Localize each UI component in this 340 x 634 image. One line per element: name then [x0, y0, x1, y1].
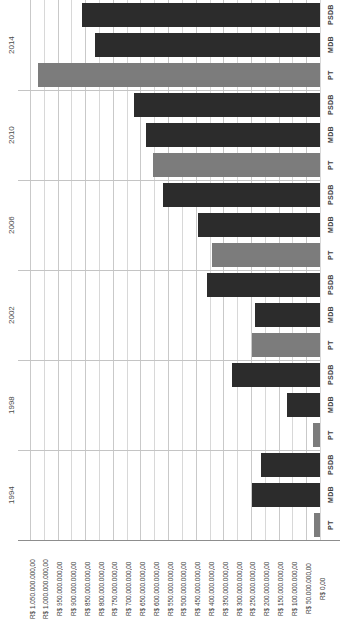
- party-label-psdb: PSDB: [322, 93, 338, 117]
- party-label-mdb: MDB: [322, 123, 338, 147]
- party-label-mdb: MDB: [322, 33, 338, 57]
- x-tick-label: R$ 1.000.000.000,00: [38, 545, 49, 633]
- x-tick-label: R$ 250.000.000,00: [245, 545, 256, 633]
- party-label-psdb: PSDB: [322, 273, 338, 297]
- year-label-2006: 2006: [2, 212, 20, 238]
- bar: [212, 243, 320, 267]
- party-label-mdb: MDB: [322, 483, 338, 507]
- bar: [287, 393, 320, 417]
- x-tick-label: R$ 200.000.000,00: [259, 545, 270, 633]
- party-label-mdb: MDB: [322, 303, 338, 327]
- bar-chart: 201420102006200219981994 PSDBMDBPTPSDBMD…: [0, 0, 340, 634]
- x-tick-label: R$ 800.000.000,00: [94, 545, 105, 633]
- year-label-2010: 2010: [2, 122, 20, 148]
- x-tick-label: R$ 0,00: [315, 545, 326, 633]
- bar: [82, 3, 320, 27]
- plot-area: [30, 0, 320, 540]
- x-tick-label: R$ 50.000.000,00: [301, 545, 312, 633]
- year-label-2014: 2014: [2, 32, 20, 58]
- x-tick-label: R$ 650.000.000,00: [135, 545, 146, 633]
- bar: [313, 423, 320, 447]
- x-tick-label: R$ 100.000.000,00: [287, 545, 298, 633]
- bar: [255, 303, 320, 327]
- party-label-pt: PT: [322, 243, 338, 267]
- year-label-2002: 2002: [2, 302, 20, 328]
- bar: [232, 363, 320, 387]
- x-tick-label: R$ 1.050.000.000,00: [25, 545, 36, 633]
- bar: [163, 183, 320, 207]
- party-label-psdb: PSDB: [322, 183, 338, 207]
- group-separator: [18, 90, 320, 91]
- group-separator: [18, 450, 320, 451]
- party-label-psdb: PSDB: [322, 453, 338, 477]
- x-axis-tick-labels: R$ 1.050.000.000,00R$ 1.000.000.000,00R$…: [30, 545, 320, 634]
- x-tick-label: R$ 150.000.000,00: [273, 545, 284, 633]
- party-label-pt: PT: [322, 513, 338, 537]
- x-tick-label: R$ 700.000.000,00: [121, 545, 132, 633]
- x-tick-label: R$ 300.000.000,00: [232, 545, 243, 633]
- x-axis-line: [18, 540, 340, 541]
- party-label-pt: PT: [322, 333, 338, 357]
- party-label-pt: PT: [322, 63, 338, 87]
- x-tick-label: R$ 600.000.000,00: [149, 545, 160, 633]
- bar: [261, 453, 320, 477]
- x-tick-label: R$ 450.000.000,00: [190, 545, 201, 633]
- party-label-mdb: MDB: [322, 213, 338, 237]
- party-label-pt: PT: [322, 423, 338, 447]
- party-label-psdb: PSDB: [322, 3, 338, 27]
- bar: [252, 483, 320, 507]
- bar: [146, 123, 320, 147]
- bar: [95, 33, 320, 57]
- bar: [38, 63, 320, 87]
- x-tick-label: R$ 400.000.000,00: [204, 545, 215, 633]
- x-tick-label: R$ 350.000.000,00: [218, 545, 229, 633]
- bar: [153, 153, 320, 177]
- bar: [252, 333, 320, 357]
- group-separator: [18, 360, 320, 361]
- x-tick-label: R$ 550.000.000,00: [163, 545, 174, 633]
- x-tick-label: R$ 900.000.000,00: [66, 545, 77, 633]
- group-separator: [18, 180, 320, 181]
- year-label-1994: 1994: [2, 482, 20, 508]
- x-tick-label: R$ 850.000.000,00: [80, 545, 91, 633]
- party-label-psdb: PSDB: [322, 363, 338, 387]
- x-tick-label: R$ 750.000.000,00: [107, 545, 118, 633]
- bar: [198, 213, 320, 237]
- party-label-pt: PT: [322, 153, 338, 177]
- year-label-1998: 1998: [2, 392, 20, 418]
- party-label-mdb: MDB: [322, 393, 338, 417]
- group-separator: [18, 270, 320, 271]
- gridline: [320, 0, 321, 540]
- x-tick-label: R$ 500.000.000,00: [176, 545, 187, 633]
- bar: [134, 93, 320, 117]
- x-tick-label: R$ 950.000.000,00: [52, 545, 63, 633]
- bar: [207, 273, 320, 297]
- bar: [314, 513, 320, 537]
